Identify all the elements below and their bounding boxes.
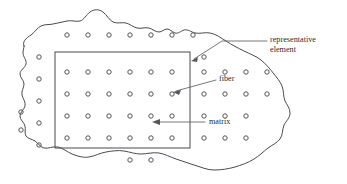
- fiber-circle: [170, 136, 174, 140]
- fiber-circle: [65, 33, 69, 37]
- fiber-circle: [202, 136, 206, 140]
- fiber-circle: [37, 77, 41, 81]
- fiber-circle: [244, 92, 248, 96]
- fiber-circle: [202, 114, 206, 118]
- matrix-label: matrix: [209, 117, 230, 126]
- fiber-circle: [86, 92, 90, 96]
- fiber-circle: [107, 33, 111, 37]
- figure-canvas: representative element fiber matrix: [0, 0, 347, 184]
- fiber-circle: [202, 55, 206, 59]
- fiber-circle: [65, 70, 69, 74]
- fiber-circle: [86, 70, 90, 74]
- fiber-circle: [223, 92, 227, 96]
- fiber-circle: [149, 158, 153, 162]
- matrix-blob-outline: [20, 10, 290, 170]
- fiber-circle: [19, 128, 23, 132]
- matrix-callout: matrix: [152, 117, 230, 126]
- matrix-arrowhead: [152, 119, 160, 125]
- fiber-circle: [244, 136, 248, 140]
- fiber-circle: [191, 33, 195, 37]
- fiber-circle: [65, 92, 69, 96]
- fiber-circle: [128, 70, 132, 74]
- fiber-circle: [128, 114, 132, 118]
- representative-element-label-line1: representative: [270, 35, 316, 44]
- representative-element-rectangle: [55, 52, 190, 148]
- fiber-circle: [170, 114, 174, 118]
- fiber-circle: [37, 121, 41, 125]
- fiber-circle: [37, 99, 41, 103]
- fiber-circle: [128, 92, 132, 96]
- fiber-circle: [86, 33, 90, 37]
- representative-element-label-line2: element: [270, 45, 297, 54]
- fiber-circle: [65, 114, 69, 118]
- representative-element-callout: representative element: [191, 35, 316, 62]
- fiber-leader: [176, 80, 216, 91]
- fiber-circle: [107, 92, 111, 96]
- fiber-circle: [128, 158, 132, 162]
- fiber-circle: [170, 70, 174, 74]
- fiber-circle: [107, 114, 111, 118]
- fiber-label: fiber: [219, 74, 235, 83]
- fiber-circle: [128, 33, 132, 37]
- fiber-circle: [86, 136, 90, 140]
- fiber-circle: [107, 136, 111, 140]
- fiber-circle: [149, 114, 153, 118]
- fiber-circle: [202, 92, 206, 96]
- fiber-circle: [149, 70, 153, 74]
- fiber-circle: [149, 92, 153, 96]
- fiber-circle: [149, 33, 153, 37]
- fiber-circle: [170, 33, 174, 37]
- fiber-circle: [37, 55, 41, 59]
- fiber-circle: [128, 136, 132, 140]
- composite-cross-section-figure: representative element fiber matrix: [0, 0, 347, 184]
- fiber-circle: [223, 136, 227, 140]
- fiber-circle: [265, 70, 269, 74]
- fiber-circle: [244, 70, 248, 74]
- fiber-circle: [107, 70, 111, 74]
- fiber-circle: [149, 136, 153, 140]
- representative-element-arrowhead: [191, 57, 198, 62]
- fiber-circle: [170, 92, 174, 96]
- fiber-circle: [65, 136, 69, 140]
- fiber-circle: [202, 70, 206, 74]
- fiber-circle: [244, 114, 248, 118]
- fiber-circle: [86, 114, 90, 118]
- fiber-circle: [265, 92, 269, 96]
